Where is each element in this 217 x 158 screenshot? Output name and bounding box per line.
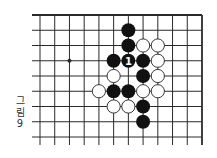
go-board-diagram: 1 (0, 0, 217, 158)
white-stone (151, 39, 164, 52)
black-stone (136, 100, 150, 114)
white-stone (151, 85, 164, 98)
stone-move-number: 1 (125, 56, 132, 67)
black-stone (136, 54, 150, 68)
white-stone (107, 69, 120, 82)
white-stone (151, 69, 164, 82)
black-stone (121, 39, 135, 53)
star-points (67, 59, 71, 63)
black-stone (136, 115, 150, 129)
caption-number: 9 (17, 118, 23, 130)
star-point-icon (67, 59, 71, 63)
white-stone (136, 39, 149, 52)
black-stone (107, 54, 121, 68)
caption-char-1: 그 (16, 95, 25, 107)
white-stone (122, 100, 135, 113)
black-stone (136, 69, 150, 83)
white-stone (107, 100, 120, 113)
white-stone (151, 54, 164, 67)
black-stone (107, 84, 121, 98)
white-stone (136, 85, 149, 98)
caption-char-2: 림 (16, 107, 25, 119)
black-stone (121, 23, 135, 37)
black-stone (121, 84, 135, 98)
white-stone (92, 85, 105, 98)
figure-caption: 그 림 9 (12, 95, 28, 130)
